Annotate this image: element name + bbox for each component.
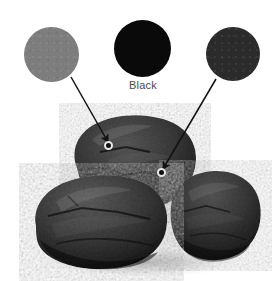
black-swatch-label: Black <box>100 78 186 92</box>
gray-swatch <box>24 27 79 82</box>
rock-bottom-right <box>171 171 261 262</box>
charcoal-swatch <box>206 27 260 81</box>
sample-point-lower <box>157 168 166 177</box>
black-swatch <box>114 20 171 77</box>
sample-point-upper <box>104 141 113 150</box>
rock-bottom-left <box>35 175 167 269</box>
color-swatch-annotation-figure: Black <box>0 0 278 281</box>
